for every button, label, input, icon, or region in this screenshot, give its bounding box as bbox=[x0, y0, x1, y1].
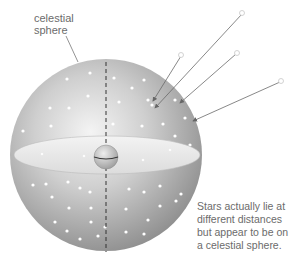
celestial-sphere-label: celestial sphere bbox=[34, 12, 74, 36]
caption: Stars actually lie at different distance… bbox=[197, 200, 288, 252]
label-line: celestial bbox=[34, 12, 74, 24]
sphere-label-leader bbox=[66, 36, 78, 62]
caption-line: a celestial sphere. bbox=[197, 239, 288, 252]
caption-line: but appear to be on bbox=[197, 226, 288, 239]
distant-stars bbox=[179, 11, 284, 84]
earth bbox=[94, 145, 118, 169]
label-line: sphere bbox=[34, 24, 74, 36]
caption-line: Stars actually lie at bbox=[197, 200, 288, 213]
caption-line: different distances bbox=[197, 213, 288, 226]
celestial-sphere-diagram: celestial sphere Stars actually lie at d… bbox=[0, 0, 304, 264]
